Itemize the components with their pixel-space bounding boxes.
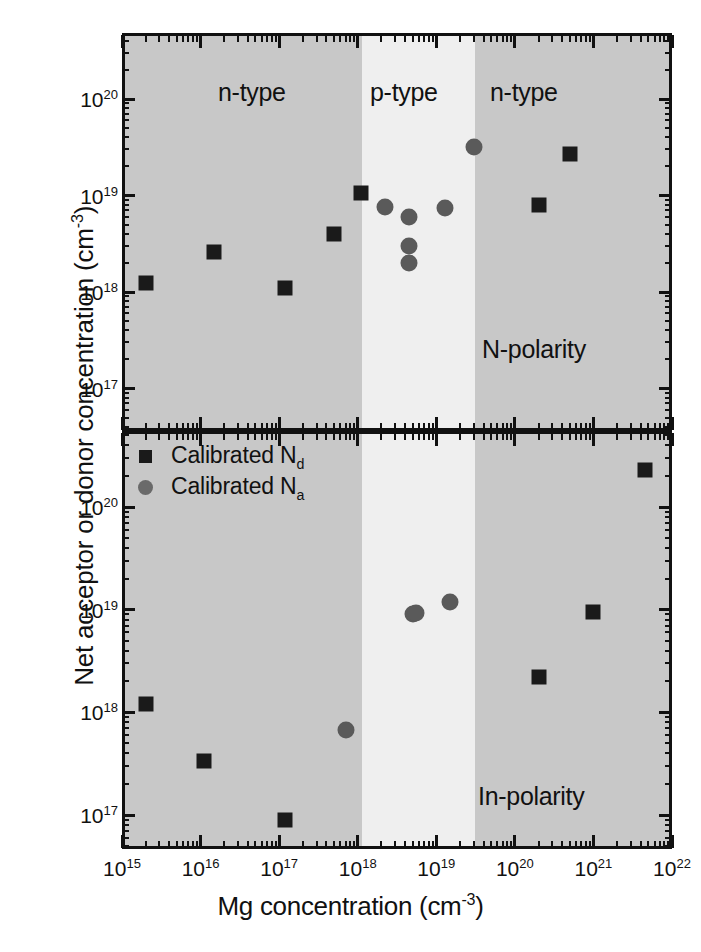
panel-tag-in-polarity: In-polarity — [478, 782, 584, 811]
x-minor-tick — [502, 841, 504, 848]
x-minor-tick — [459, 841, 461, 848]
y-minor-tick — [665, 358, 672, 360]
y-major-tick — [659, 194, 672, 197]
x-minor-tick — [506, 841, 508, 848]
y-tick-base: 10 — [80, 281, 103, 304]
x-minor-tick — [538, 841, 540, 848]
x-minor-tick — [145, 841, 147, 848]
y-minor-tick — [665, 52, 672, 54]
y-minor-tick — [122, 734, 129, 736]
x-minor-tick — [168, 433, 170, 440]
x-minor-tick — [380, 35, 382, 42]
y-minor-tick — [122, 742, 129, 744]
y-major-tick — [659, 98, 672, 101]
x-minor-tick — [418, 841, 420, 848]
x-minor-tick — [418, 423, 420, 430]
x-minor-tick — [339, 35, 341, 42]
x-minor-tick — [187, 841, 189, 848]
x-tick-exponent: 22 — [676, 856, 690, 871]
x-minor-tick — [380, 433, 382, 440]
x-minor-tick — [261, 423, 263, 430]
x-minor-tick — [380, 423, 382, 430]
x-minor-tick — [659, 433, 661, 440]
x-minor-tick — [616, 423, 618, 430]
x-minor-tick — [473, 423, 475, 430]
x-minor-tick — [551, 35, 553, 42]
x-tick-base: 10 — [575, 857, 598, 880]
x-major-tick — [513, 35, 516, 48]
x-minor-tick — [418, 35, 420, 42]
x-minor-tick — [510, 433, 512, 440]
legend: Calibrated NdCalibrated Na — [132, 441, 304, 503]
y-tick-label: 1018 — [56, 700, 118, 725]
y-minor-tick — [122, 613, 129, 615]
x-minor-tick — [271, 841, 273, 848]
x-minor-tick — [423, 423, 425, 430]
y-minor-tick — [665, 819, 672, 821]
legend-item-d: Calibrated Nd — [132, 441, 304, 472]
y-minor-tick — [665, 547, 672, 549]
x-minor-tick — [182, 841, 184, 848]
y-tick-exponent: 18 — [104, 280, 118, 295]
x-minor-tick — [483, 841, 485, 848]
y-tick-base: 10 — [80, 496, 103, 519]
y-minor-tick — [665, 40, 672, 42]
x-minor-tick — [569, 433, 571, 440]
y-minor-tick — [665, 742, 672, 744]
x-minor-tick — [432, 35, 434, 42]
x-minor-tick — [353, 35, 355, 42]
data-point-nd — [196, 753, 211, 768]
x-minor-tick — [158, 35, 160, 42]
y-minor-tick — [122, 113, 129, 115]
x-minor-tick — [538, 35, 540, 42]
x-minor-tick — [254, 433, 256, 440]
x-minor-tick — [502, 35, 504, 42]
y-minor-tick — [665, 262, 672, 264]
x-minor-tick — [158, 841, 160, 848]
x-minor-tick — [145, 35, 147, 42]
x-minor-tick — [353, 423, 355, 430]
x-minor-tick — [575, 35, 577, 42]
y-minor-tick — [665, 245, 672, 247]
y-minor-tick — [665, 650, 672, 652]
x-minor-tick — [428, 423, 430, 430]
legend-label-text: Calibrated N — [171, 442, 296, 468]
y-minor-tick — [665, 397, 672, 399]
x-minor-tick — [490, 35, 492, 42]
y-tick-exponent: 18 — [104, 700, 118, 715]
y-minor-tick — [665, 457, 672, 459]
y-minor-tick — [665, 312, 672, 314]
x-minor-tick — [423, 433, 425, 440]
y-tick-base: 10 — [80, 701, 103, 724]
y-tick-base: 10 — [80, 598, 103, 621]
x-minor-tick — [158, 433, 160, 440]
y-minor-tick — [122, 392, 129, 394]
y-minor-tick — [665, 631, 672, 633]
x-major-tick — [199, 35, 202, 48]
x-major-tick — [356, 35, 359, 48]
x-minor-tick — [490, 423, 492, 430]
y-minor-tick — [665, 752, 672, 754]
y-minor-tick — [122, 522, 129, 524]
x-minor-tick — [589, 423, 591, 430]
x-minor-tick — [459, 423, 461, 430]
y-minor-tick — [665, 516, 672, 518]
x-minor-tick — [551, 433, 553, 440]
y-minor-tick — [122, 409, 129, 411]
legend-label: Calibrated Nd — [171, 442, 304, 472]
y-minor-tick — [665, 392, 672, 394]
x-minor-tick — [575, 841, 577, 848]
y-tick-base: 10 — [80, 804, 103, 827]
x-minor-tick — [158, 423, 160, 430]
y-minor-tick — [122, 830, 129, 832]
x-minor-tick — [412, 433, 414, 440]
x-minor-tick — [473, 35, 475, 42]
y-minor-tick — [665, 204, 672, 206]
x-minor-tick — [428, 433, 430, 440]
data-point-nd — [327, 226, 342, 241]
x-minor-tick — [223, 433, 225, 440]
x-minor-tick — [192, 841, 194, 848]
y-tick-label: 1020 — [56, 87, 118, 112]
x-minor-tick — [561, 841, 563, 848]
x-minor-tick — [325, 423, 327, 430]
